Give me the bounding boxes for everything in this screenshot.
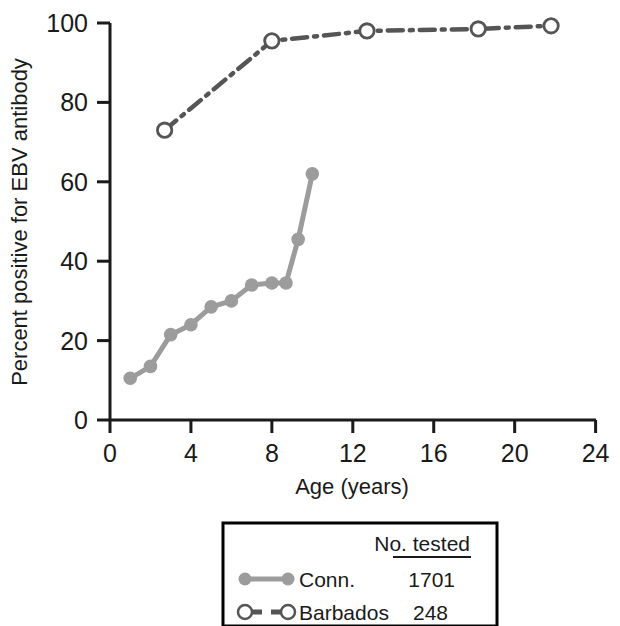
data-point: [306, 167, 320, 181]
data-point: [360, 24, 374, 38]
y-axis-ticks: 020406080100: [46, 9, 110, 434]
data-point: [157, 123, 171, 137]
series-barbados: [157, 19, 558, 138]
legend-label-barbados: Barbados: [299, 601, 389, 624]
x-tick-label: 16: [420, 439, 448, 467]
x-tick-label: 12: [339, 439, 367, 467]
figure-container: Percent positive for EBV antibody 020406…: [0, 0, 620, 626]
x-tick-label: 8: [265, 439, 279, 467]
y-tick-label: 0: [74, 406, 88, 434]
data-point: [245, 278, 259, 292]
y-tick-label: 100: [46, 9, 88, 37]
data-point: [265, 276, 279, 290]
series-line-barbados: [165, 26, 551, 130]
x-tick-label: 24: [582, 439, 610, 467]
legend-column-header: No. tested: [374, 532, 470, 555]
data-series-group: [123, 19, 558, 386]
data-point: [265, 34, 279, 48]
series-conn: [123, 167, 319, 385]
legend-value-barbados: 248: [413, 601, 448, 624]
data-point: [291, 233, 305, 247]
legend-header-group: No. tested: [374, 532, 471, 557]
legend-marker-barbados-left: [238, 605, 252, 619]
x-tick-label: 0: [103, 439, 117, 467]
data-point: [544, 19, 558, 33]
data-point: [184, 318, 198, 332]
data-point: [164, 328, 178, 342]
legend-marker-barbados-right: [281, 605, 295, 619]
y-tick-label: 20: [60, 327, 88, 355]
legend-marker-conn-left: [239, 573, 252, 586]
data-point: [225, 294, 239, 308]
data-point: [279, 276, 293, 290]
y-tick-label: 60: [60, 168, 88, 196]
y-tick-label: 80: [60, 88, 88, 116]
data-point: [204, 300, 218, 314]
chart-legend: No. tested Conn. 1701 Barbados 248: [223, 523, 497, 626]
y-tick-label: 40: [60, 247, 88, 275]
data-point: [123, 372, 137, 386]
data-point: [471, 22, 485, 36]
ebv-antibody-line-chart: Percent positive for EBV antibody 020406…: [0, 0, 620, 626]
x-tick-label: 20: [501, 439, 529, 467]
legend-marker-conn-right: [282, 573, 295, 586]
legend-value-conn: 1701: [408, 568, 455, 591]
x-axis-ticks: 04812162024: [103, 420, 610, 467]
x-axis-title: Age (years): [295, 474, 409, 499]
series-line-conn: [130, 174, 312, 378]
y-axis-title: Percent positive for EBV antibody: [7, 58, 32, 386]
legend-label-conn: Conn.: [299, 568, 355, 591]
data-point: [144, 360, 158, 374]
x-tick-label: 4: [184, 439, 198, 467]
